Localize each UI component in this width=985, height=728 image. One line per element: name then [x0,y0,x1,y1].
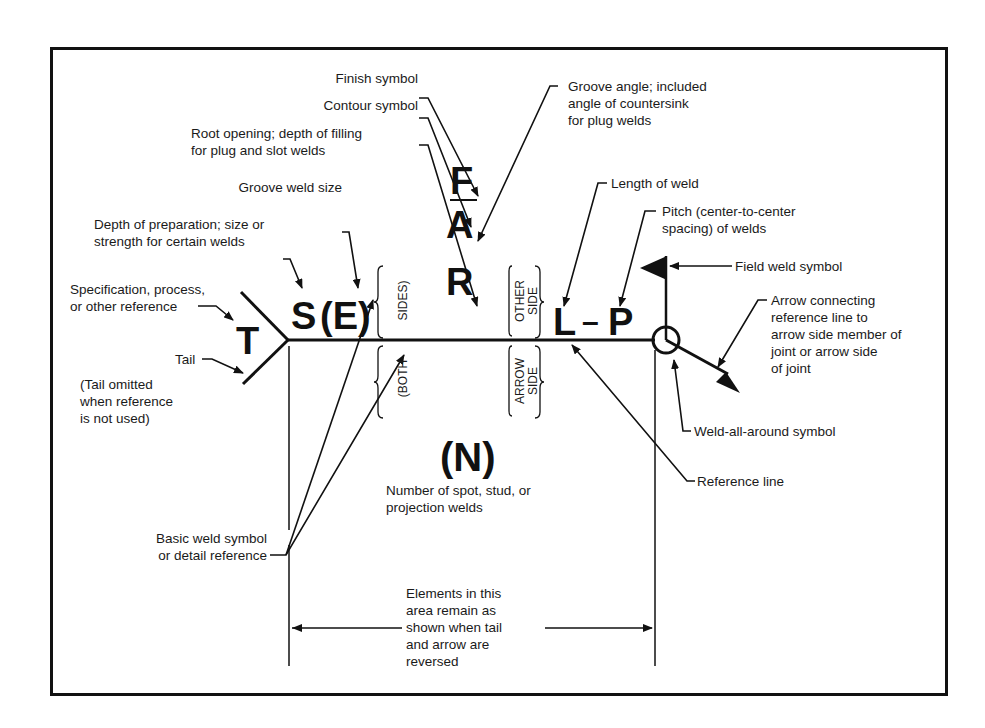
label-pitch-line2: spacing) of welds [662,220,796,237]
label-elements-line2: area remain as [406,602,502,619]
label-number-of-welds: Number of spot, stud, or projection weld… [386,482,531,516]
label-basic-weld-line2: or detail reference [156,547,267,564]
label-finish-symbol: Finish symbol [335,70,418,87]
label-reference-line: Reference line [697,473,784,490]
label-weld-all-around: Weld-all-around symbol [694,423,836,440]
symbol-f: F [450,162,473,200]
label-basic-weld-symbol: Basic weld symbol or detail reference [156,530,267,564]
label-depth-prep-line2: strength for certain welds [94,233,264,250]
label-groove-angle-line3: for plug welds [568,112,707,129]
label-root-opening-line2: for plug and slot welds [191,142,362,159]
label-both: (BOTH [397,349,410,409]
label-arrow-side-word: SIDE [526,367,540,395]
symbol-s: S [291,297,316,335]
label-number-line1: Number of spot, stud, or [386,482,531,499]
label-root-opening-line1: Root opening; depth of filling [191,125,362,142]
symbol-r: R [446,263,473,301]
label-spec-line2: or other reference [70,298,205,315]
label-elements-line1: Elements in this [406,585,502,602]
label-tail: Tail [175,351,195,368]
label-groove-angle-line2: angle of countersink [568,95,707,112]
label-tail-omitted-line2: when reference [80,393,173,410]
label-arrow-conn-line4: joint or arrow side [771,343,902,360]
label-spec-line1: Specification, process, [70,281,205,298]
label-root-opening: Root opening; depth of filling for plug … [191,125,362,159]
label-elements-area: Elements in this area remain as shown wh… [406,585,502,670]
label-arrow-side: ARROW SIDE [514,346,540,416]
label-basic-weld-line1: Basic weld symbol [156,530,267,547]
label-pitch-line1: Pitch (center-to-center [662,203,796,220]
label-groove-angle-line1: Groove angle; included [568,78,707,95]
label-elements-line3: shown when tail [406,619,502,636]
label-arrow-conn-line3: arrow side member of [771,326,902,343]
label-field-weld-symbol: Field weld symbol [735,258,842,275]
label-arrow: ARROW [513,358,527,404]
label-number-line2: projection welds [386,499,531,516]
label-elements-line5: reversed [406,653,502,670]
label-pitch: Pitch (center-to-center spacing) of weld… [662,203,796,237]
label-tail-omitted: (Tail omitted when reference is not used… [80,376,173,427]
symbol-e: (E) [320,297,371,335]
label-groove-angle: Groove angle; included angle of counters… [568,78,707,129]
symbol-a: A [446,206,473,244]
label-tail-omitted-line3: is not used) [80,410,173,427]
symbol-p: P [608,303,633,341]
symbol-l: L [553,303,576,341]
label-other-side-word: SIDE [526,287,540,315]
label-length-of-weld: Length of weld [611,175,699,192]
label-other-side: OTHER SIDE [514,266,540,336]
label-depth-prep-line1: Depth of preparation; size or [94,216,264,233]
label-sides: SIDES) [397,271,410,331]
arrowhead-icon [716,372,740,393]
symbol-n: (N) [440,438,496,476]
label-other: OTHER [513,280,527,322]
label-groove-weld-size: Groove weld size [238,179,342,196]
label-arrow-conn-line5: of joint [771,360,902,377]
label-tail-omitted-line1: (Tail omitted [80,376,173,393]
label-arrow-connecting: Arrow connecting reference line to arrow… [771,292,902,377]
field-weld-flag-icon [640,256,667,280]
symbol-dash: – [582,303,599,341]
label-depth-preparation: Depth of preparation; size or strength f… [94,216,264,250]
label-contour-symbol: Contour symbol [323,97,418,114]
label-specification: Specification, process, or other referen… [70,281,205,315]
label-arrow-conn-line2: reference line to [771,309,902,326]
symbol-t: T [236,322,259,360]
label-elements-line4: and arrow are [406,636,502,653]
label-arrow-conn-line1: Arrow connecting [771,292,902,309]
